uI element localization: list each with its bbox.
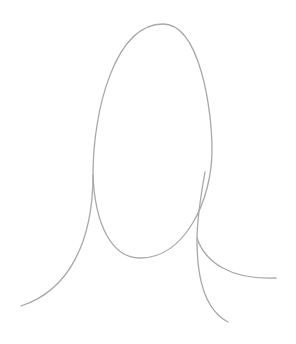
drawing-canvas	[0, 0, 296, 344]
sketch-svg	[0, 0, 296, 344]
left-tail-stroke	[21, 175, 93, 306]
right-branch-stroke	[197, 238, 276, 278]
head-loop-stroke	[93, 24, 212, 258]
